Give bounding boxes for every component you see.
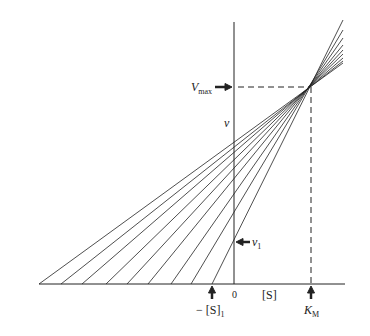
- s1-label: − [S]1: [196, 304, 224, 319]
- data-lines: [39, 20, 343, 284]
- origin-label: 0: [232, 290, 237, 300]
- v1-arrowhead-icon: [236, 239, 243, 246]
- km-arrowhead-icon: [308, 286, 315, 293]
- vmax-label: Vmax: [191, 81, 212, 96]
- direct-linear-plot: [0, 0, 370, 336]
- s1-arrowhead-icon: [209, 286, 216, 293]
- vmax-arrowhead-icon: [225, 84, 232, 91]
- s-axis-label: [S]: [262, 289, 277, 301]
- v1-label: v1: [252, 236, 261, 251]
- km-label: KM: [304, 304, 319, 319]
- v-axis-label: v: [224, 117, 229, 129]
